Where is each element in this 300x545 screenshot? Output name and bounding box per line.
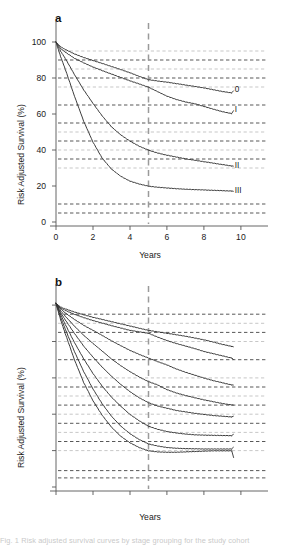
y-tick-label: 40: [20, 145, 46, 155]
x-tick-label: 4: [119, 232, 141, 242]
figure-caption-partial: Fig. 1 Risk adjusted survival curves by …: [0, 536, 300, 545]
survival-curve-III: [56, 42, 232, 191]
x-tick-label: 0: [45, 232, 67, 242]
y-tick-label: 80: [20, 73, 46, 83]
y-tick-label: 60: [20, 109, 46, 119]
y-tick-label: 0: [20, 217, 46, 227]
y-tick-label: 100: [20, 37, 46, 47]
x-tick-label: 6: [156, 232, 178, 242]
survival-curve-IIA: [56, 303, 232, 405]
panel-a: a Risk Adjusted Survival (%) Years 0IIII…: [0, 0, 300, 272]
panel-b: b Risk Adjusted Survival (%) Years 0IAIB…: [0, 272, 300, 522]
curve-label-I: I: [235, 105, 237, 114]
curve-label-connector-I: [232, 110, 234, 113]
y-tick-label: 20: [20, 181, 46, 191]
curve-label-connector-IIIB: [232, 447, 234, 449]
panel-b-plot: [0, 272, 300, 522]
curve-label-connector-III: [232, 191, 234, 192]
curve-label-II: II: [235, 161, 240, 170]
curve-label-0: 0: [235, 85, 240, 94]
x-tick-label: 10: [230, 232, 252, 242]
survival-curve-IA: [56, 303, 232, 358]
curve-label-III: III: [235, 186, 242, 195]
curve-label-connector-IIIA: [232, 434, 234, 435]
survival-curve-IIIB: [56, 303, 232, 449]
curve-label-connector-IIIC: [232, 451, 234, 458]
x-tick-label: 8: [193, 232, 215, 242]
curve-label-connector-0: [232, 91, 234, 93]
survival-curve-II: [56, 42, 232, 166]
x-tick-label: 2: [82, 232, 104, 242]
survival-curve-0: [56, 303, 232, 346]
curve-label-connector-IIB: [232, 416, 234, 417]
survival-figure: a Risk Adjusted Survival (%) Years 0IIII…: [0, 0, 300, 545]
